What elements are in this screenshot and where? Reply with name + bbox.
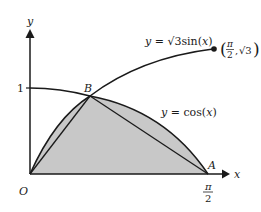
endpoint-open-paren: ( [220,39,227,59]
origin-label: O [19,185,28,198]
x-axis-label: x [234,168,241,181]
y-tick-label: 1 [17,82,24,95]
x-axis-arrow-icon [222,170,230,179]
x-tick-numerator: π [204,181,212,192]
y-axis-label: y [26,15,34,28]
endpoint-close-paren: ) [253,39,260,59]
sine-curve-label: y = √3sin(x) [144,35,213,48]
y-axis-arrow-icon [26,29,35,38]
diagram-canvas: y x 1 O B A π 2 y = √3sin(x) y = cos(x) … [0,0,261,212]
endpoint-x-denominator: 2 [227,50,233,60]
endpoint-y-value: √3 [239,45,252,56]
cosine-curve-label: y = cos(x) [160,106,217,119]
graph-svg: y x 1 O B A π 2 y = √3sin(x) y = cos(x) … [0,0,261,212]
endpoint-comma: , [235,45,238,56]
point-A-label: A [207,159,216,172]
point-B-label: B [83,82,92,95]
x-tick-denominator: 2 [205,193,211,204]
endpoint-x-numerator: π [226,39,234,49]
